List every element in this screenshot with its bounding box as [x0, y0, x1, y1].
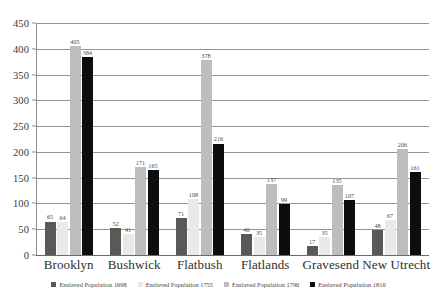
bar-slot: 52 — [110, 228, 121, 255]
bar[interactable] — [176, 218, 187, 255]
bar-slot: 161 — [410, 172, 421, 255]
y-axis-tick-label: 150 — [13, 172, 29, 183]
x-axis-tick-label: Flatbush — [177, 257, 223, 273]
bar[interactable] — [410, 172, 421, 255]
y-axis: 050100150200250300350400450 — [0, 23, 36, 255]
bar-value-label: 165 — [148, 163, 157, 169]
legend-label: Enslaved Population 1810 — [318, 281, 385, 288]
bar[interactable] — [148, 170, 159, 255]
bar-slot: 137 — [266, 184, 277, 255]
bar[interactable] — [135, 167, 146, 255]
bar[interactable] — [57, 222, 68, 255]
bar-chart: 050100150200250300350400450 656440538452… — [0, 0, 437, 300]
bar-slot: 216 — [213, 144, 224, 255]
bar-value-label: 65 — [47, 214, 53, 220]
bar[interactable] — [110, 228, 121, 255]
bar[interactable] — [241, 234, 252, 255]
bar-value-label: 64 — [59, 215, 65, 221]
bar[interactable] — [70, 46, 81, 255]
legend-item[interactable]: Enslaved Population 1810 — [310, 281, 385, 288]
bar-value-label: 216 — [214, 136, 223, 142]
bar-value-label: 108 — [189, 192, 198, 198]
bar-slot: 99 — [279, 204, 290, 255]
bar[interactable] — [201, 60, 212, 255]
bar[interactable] — [213, 144, 224, 255]
x-axis-tick-label: Brooklyn — [44, 257, 94, 273]
bar[interactable] — [397, 149, 408, 255]
bar-slot: 165 — [148, 170, 159, 255]
bar-slot: 107 — [344, 200, 355, 255]
bar-group: 403513799 — [233, 23, 299, 255]
bar[interactable] — [266, 184, 277, 255]
bar-group: 71108378216 — [167, 23, 233, 255]
bar-slot: 405 — [70, 46, 81, 255]
bar-value-label: 48 — [374, 223, 380, 229]
y-axis-tick-label: 0 — [24, 250, 29, 261]
legend-item[interactable]: Enslaved Population 1755 — [138, 281, 213, 288]
chart-legend: Enslaved Population 1698Enslaved Populat… — [0, 281, 437, 288]
bar-value-label: 171 — [136, 160, 145, 166]
y-axis-tick-label: 100 — [13, 198, 29, 209]
bar[interactable] — [279, 204, 290, 255]
bar-group: 1735135107 — [298, 23, 364, 255]
bar-slot: 171 — [135, 167, 146, 255]
bar-group: 5241171165 — [102, 23, 168, 255]
bar-slot: 35 — [319, 237, 330, 255]
bar-slot: 378 — [201, 60, 212, 255]
y-axis-tick-label: 450 — [13, 18, 29, 29]
x-axis-tick-label: Gravesend — [303, 257, 360, 273]
legend-label: Enslaved Population 1790 — [232, 281, 299, 288]
bar[interactable] — [332, 185, 343, 255]
bar-slot: 206 — [397, 149, 408, 255]
y-axis-tick-label: 200 — [13, 146, 29, 157]
bar-value-label: 137 — [267, 177, 276, 183]
bar-slot: 35 — [254, 237, 265, 255]
gridline — [36, 255, 429, 256]
bar-value-label: 40 — [243, 227, 249, 233]
y-axis-tick-label: 350 — [13, 69, 29, 80]
legend-item[interactable]: Enslaved Population 1790 — [224, 281, 299, 288]
legend-item[interactable]: Enslaved Population 1698 — [51, 281, 126, 288]
bar-value-label: 35 — [256, 230, 262, 236]
bar[interactable] — [123, 234, 134, 255]
bar-slot: 48 — [372, 230, 383, 255]
bar[interactable] — [188, 199, 199, 255]
bar-value-label: 384 — [83, 50, 92, 56]
y-axis-tick-label: 400 — [13, 43, 29, 54]
legend-swatch-icon — [310, 282, 315, 287]
x-axis-tick-label: Bushwick — [108, 257, 161, 273]
bar-group: 6564405384 — [36, 23, 102, 255]
bar-slot: 40 — [241, 234, 252, 255]
legend-swatch-icon — [51, 282, 56, 287]
bar-slot: 65 — [45, 222, 56, 256]
bar-group: 4867206161 — [364, 23, 430, 255]
bar-value-label: 135 — [332, 178, 341, 184]
plot-area: 6564405384524117116571108378216403513799… — [36, 23, 429, 255]
bar-value-label: 52 — [112, 221, 118, 227]
bar[interactable] — [82, 57, 93, 255]
y-axis-tick-label: 50 — [18, 224, 29, 235]
bar[interactable] — [319, 237, 330, 255]
y-axis-tick-label: 250 — [13, 121, 29, 132]
bar[interactable] — [307, 246, 318, 255]
bar[interactable] — [344, 200, 355, 255]
x-axis-tick-label: Flatlands — [241, 257, 290, 273]
legend-label: Enslaved Population 1755 — [146, 281, 213, 288]
bar-value-label: 206 — [398, 142, 407, 148]
bar-value-label: 99 — [281, 197, 287, 203]
bar[interactable] — [372, 230, 383, 255]
bar-slot: 64 — [57, 222, 68, 255]
x-axis: BrooklynBushwickFlatbushFlatlandsGravese… — [36, 257, 429, 277]
legend-swatch-icon — [224, 282, 229, 287]
bar-value-label: 41 — [125, 227, 131, 233]
bar-slot: 67 — [385, 220, 396, 255]
bar-value-label: 35 — [321, 230, 327, 236]
bar-slot: 41 — [123, 234, 134, 255]
bar[interactable] — [45, 222, 56, 256]
bar[interactable] — [385, 220, 396, 255]
bar-slot: 135 — [332, 185, 343, 255]
legend-swatch-icon — [138, 282, 143, 287]
bar[interactable] — [254, 237, 265, 255]
bar-value-label: 161 — [410, 165, 419, 171]
bar-value-label: 107 — [345, 193, 354, 199]
